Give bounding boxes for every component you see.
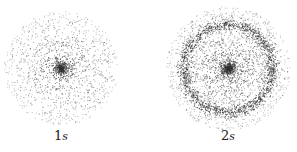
orbital-2s-cloud: [166, 6, 290, 130]
label-2s: 2s: [221, 128, 235, 143]
orbital-diagram: [0, 0, 297, 152]
orbital-1s-cloud: [4, 11, 117, 125]
label-1s: 1s: [54, 128, 68, 143]
